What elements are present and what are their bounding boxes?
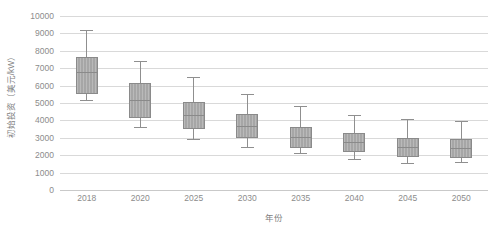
whisker-cap-upper [294,106,307,107]
whisker-lower [407,157,408,164]
y-axis-tick-label: 0 [49,185,54,195]
y-axis-tick-label: 2000 [35,150,54,160]
x-axis-line [60,190,488,191]
boxplot-box[interactable] [290,16,312,190]
median-line [129,100,151,101]
whisker-upper [140,61,141,83]
whisker-cap-upper [348,115,361,116]
median-line [450,148,472,149]
median-line [290,137,312,138]
x-axis-title: 年份 [60,211,488,223]
y-axis-tick-label: 5000 [35,98,54,108]
whisker-cap-lower [455,162,468,163]
median-line [236,126,258,127]
whisker-upper [354,115,355,133]
x-axis-tick-label: 2030 [238,193,257,203]
whisker-cap-upper [80,30,93,31]
whisker-cap-lower [80,100,93,101]
whisker-cap-lower [348,159,361,160]
median-line [76,72,98,73]
y-axis-tick-label: 1000 [35,168,54,178]
whisker-lower [140,118,141,127]
whisker-lower [193,129,194,139]
box-iqr [76,57,98,95]
boxplot-box[interactable] [183,16,205,190]
y-axis-tick-label: 6000 [35,81,54,91]
whisker-lower [247,138,248,146]
whisker-upper [407,119,408,138]
whisker-cap-lower [294,153,307,154]
y-axis-tick-label: 4000 [35,115,54,125]
whisker-upper [86,30,87,57]
whisker-lower [354,152,355,160]
median-line [183,115,205,116]
boxplot-box[interactable] [450,16,472,190]
whisker-cap-lower [134,127,147,128]
boxplot-series [60,16,488,190]
whisker-cap-upper [187,77,200,78]
x-axis-tick-label: 2020 [131,193,150,203]
x-axis-tick-label: 2018 [77,193,96,203]
y-axis-tick-label: 7000 [35,63,54,73]
y-axis-tick-label: 3000 [35,133,54,143]
whisker-upper [247,94,248,114]
whisker-cap-lower [187,139,200,140]
whisker-upper [461,121,462,139]
median-line [397,147,419,148]
boxplot-box[interactable] [76,16,98,190]
whisker-cap-upper [134,61,147,62]
x-axis-tick-label: 2025 [184,193,203,203]
plot-area [60,16,488,190]
median-line [343,142,365,143]
boxplot-chart: 初始投资（美元/kW） 1000090008000700060005000400… [0,0,493,241]
whisker-cap-lower [401,163,414,164]
y-axis-tick-label: 9000 [35,28,54,38]
x-axis-tick-labels: 20182020202520302035204020452050 [60,193,488,209]
y-axis-tick-label: 8000 [35,46,54,56]
x-axis-tick-label: 2040 [345,193,364,203]
boxplot-box[interactable] [236,16,258,190]
x-axis-tick-label: 2050 [452,193,471,203]
y-axis-tick-labels: 1000090008000700060005000400030002000100… [14,0,58,241]
x-axis-tick-label: 2035 [291,193,310,203]
boxplot-box[interactable] [129,16,151,190]
boxplot-box[interactable] [343,16,365,190]
whisker-upper [300,106,301,127]
whisker-cap-lower [241,147,254,148]
whisker-upper [193,77,194,102]
whisker-cap-upper [401,119,414,120]
whisker-cap-upper [455,121,468,122]
x-axis-tick-label: 2045 [398,193,417,203]
y-axis-tick-label: 10000 [30,11,54,21]
whisker-cap-upper [241,94,254,95]
boxplot-box[interactable] [397,16,419,190]
